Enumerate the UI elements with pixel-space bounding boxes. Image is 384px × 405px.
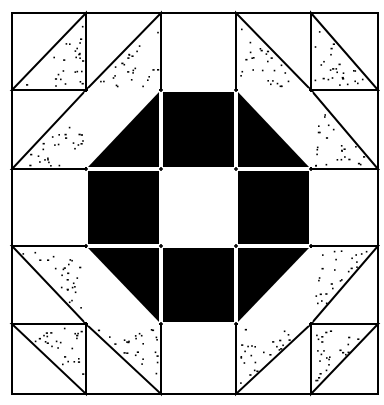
quilt-cell [238, 171, 309, 244]
background [0, 0, 384, 405]
quilt-cell [163, 92, 234, 167]
quilt-block [0, 0, 384, 405]
quilt-cell [88, 171, 159, 244]
quilt-cell [163, 248, 234, 322]
